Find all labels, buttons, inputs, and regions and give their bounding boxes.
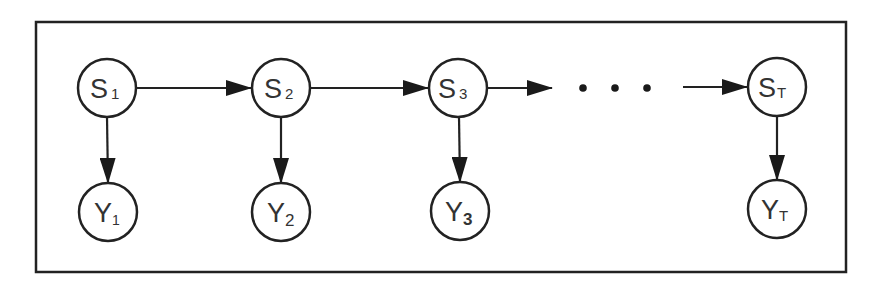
edge-s3-y3 xyxy=(459,117,460,182)
hmm-diagram: S1 S2 S3 ST Y1 Y2 Y3 YT xyxy=(0,0,881,285)
node-y3: Y3 xyxy=(431,182,489,240)
node-st: ST xyxy=(748,58,806,116)
ellipsis xyxy=(579,84,651,92)
node-y2: Y2 xyxy=(252,183,310,241)
node-s3: S3 xyxy=(429,59,487,117)
node-y1: Y1 xyxy=(79,183,137,241)
node-s1: S1 xyxy=(78,59,136,117)
node-yt: YT xyxy=(748,180,806,238)
edge-s1-y1 xyxy=(107,117,108,183)
node-s2: S2 xyxy=(252,59,310,117)
